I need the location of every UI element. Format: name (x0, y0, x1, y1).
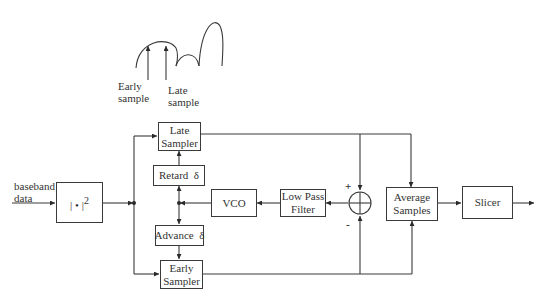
early-sampler-line2: Sampler (163, 275, 200, 288)
magnitude-squared-block: | • |2 (56, 182, 103, 223)
waveform-pulse-2 (176, 55, 199, 66)
early-sample-label-line1: Early (118, 80, 149, 92)
vco-junction-dot (177, 201, 181, 205)
magnitude-squared-exponent: 2 (84, 195, 89, 206)
late-sampler-line1: Late (161, 124, 198, 137)
lpf-line1: Low Pass (282, 190, 324, 203)
retard-label: Retard δ (159, 169, 199, 182)
diagram-wiring (0, 0, 536, 300)
slicer-block: Slicer (462, 186, 513, 219)
low-pass-filter-block: Low Pass Filter (280, 189, 326, 217)
early-sampler-line1: Early (163, 262, 200, 275)
late-sample-label-line1: Late (168, 84, 199, 96)
late-sample-label-line2: sample (168, 96, 199, 108)
early-sample-label: Early sample (118, 80, 149, 104)
input-label-line1: baseband (14, 180, 55, 192)
late-sampler-line2: Sampler (161, 137, 198, 150)
retard-block: Retard δ (153, 165, 205, 186)
lpf-line2: Filter (282, 203, 324, 216)
input-label-line2: data (14, 192, 55, 204)
late-sample-label: Late sample (168, 84, 199, 108)
vco-block: VCO (211, 189, 257, 217)
slicer-label: Slicer (475, 196, 501, 209)
average-samples-line1: Average (393, 191, 430, 204)
advance-label: Advance δ (155, 229, 205, 242)
split-junction-dot (132, 201, 136, 205)
vco-label: VCO (222, 197, 245, 210)
early-sampler-block: Early Sampler (160, 260, 203, 289)
summer-minus-sign: - (346, 218, 350, 230)
average-samples-block: Average Samples (386, 187, 438, 221)
early-sample-label-line2: sample (118, 92, 149, 104)
average-samples-line2: Samples (393, 204, 430, 217)
summer-plus-sign: + (345, 180, 351, 192)
input-label: baseband data (14, 180, 55, 204)
magnitude-squared-label: | • |2 (70, 194, 89, 212)
advance-block: Advance δ (155, 225, 204, 246)
waveform-pulse-3 (199, 23, 223, 66)
magnitude-squared-text: | • | (70, 198, 84, 210)
late-sampler-block: Late Sampler (158, 122, 201, 151)
waveform-pulse-1 (136, 42, 178, 68)
